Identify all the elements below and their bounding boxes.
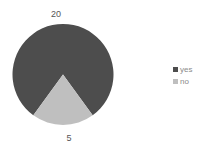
legend-label-no: no	[180, 77, 189, 86]
legend-item-yes: yes	[173, 63, 192, 75]
legend-label-yes: yes	[180, 65, 192, 74]
data-label-yes: 20	[51, 9, 61, 19]
data-label-no: 5	[66, 133, 71, 143]
pie-slices	[12, 24, 113, 125]
legend: yes no	[173, 63, 192, 87]
legend-swatch-no	[173, 79, 178, 84]
legend-item-no: no	[173, 75, 192, 87]
legend-swatch-yes	[173, 67, 178, 72]
